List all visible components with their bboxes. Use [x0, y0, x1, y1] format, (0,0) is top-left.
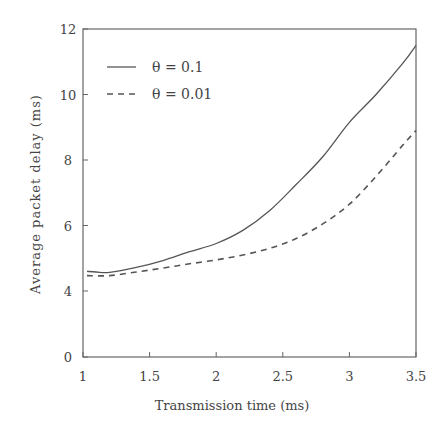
x-tick-label: 3: [345, 369, 353, 384]
plot-frame: [83, 29, 416, 357]
x-tick-label: 2: [212, 369, 220, 384]
x-tick-label: 3.5: [406, 369, 427, 384]
y-axis-ticks: 04681012: [60, 22, 88, 365]
series-theta-0-1-line: [87, 45, 416, 272]
x-axis-label: Transmission time (ms): [155, 398, 310, 413]
legend-label-theta-0-1: θ = 0.1: [152, 59, 203, 75]
y-tick-label: 4: [64, 284, 72, 299]
x-tick-label: 1.5: [139, 369, 160, 384]
y-tick-label: 0: [64, 350, 72, 365]
legend-label-theta-0-01: θ = 0.01: [152, 86, 212, 102]
y-tick-label: 6: [64, 219, 72, 234]
x-tick-label: 2.5: [272, 369, 293, 384]
series-lines: [87, 45, 416, 275]
y-tick-label: 10: [60, 88, 77, 103]
y-axis-label: Average packet delay (ms): [28, 94, 43, 295]
legend: θ = 0.1 θ = 0.01: [107, 59, 212, 102]
y-tick-label: 8: [64, 153, 72, 168]
y-tick-label: 12: [60, 22, 77, 37]
series-theta-0-01-line: [87, 131, 416, 276]
line-chart: 11.522.533.5 04681012 θ = 0.1 θ = 0.01 T…: [0, 0, 446, 437]
x-tick-label: 1: [79, 369, 87, 384]
